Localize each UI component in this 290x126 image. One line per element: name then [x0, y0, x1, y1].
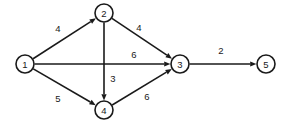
edge-weight-4-to-3: 6: [144, 91, 149, 102]
node-1[interactable]: 1: [16, 55, 34, 73]
edge-weight-2-to-4: 3: [110, 73, 115, 84]
edge-weight-1-to-3: 6: [131, 49, 136, 60]
edge-1-to-2: [33, 22, 91, 59]
arrowhead-icon-1-to-3: [164, 61, 170, 66]
node-label-2: 2: [101, 8, 106, 19]
edge-weight-1-to-2: 4: [55, 23, 60, 34]
edge-weight-2-to-3: 4: [136, 22, 141, 33]
edge-1-to-4: [33, 69, 90, 102]
node-2[interactable]: 2: [95, 4, 113, 22]
node-label-3: 3: [177, 59, 182, 70]
graph-canvas: 4463562 12345: [0, 0, 290, 126]
node-label-4: 4: [101, 105, 106, 116]
arrowhead-icon-3-to-5: [250, 61, 256, 66]
node-5[interactable]: 5: [257, 55, 275, 73]
edge-weight-1-to-4: 5: [55, 93, 60, 104]
node-label-5: 5: [263, 59, 268, 70]
node-label-1: 1: [22, 59, 27, 70]
edge-weight-3-to-5: 2: [218, 45, 223, 56]
arrowhead-icon-2-to-4: [101, 94, 106, 100]
node-3[interactable]: 3: [171, 55, 189, 73]
edge-4-to-3: [112, 72, 166, 105]
graph-diagram: 4463562 12345: [0, 0, 290, 126]
node-4[interactable]: 4: [95, 101, 113, 119]
edge-weights-layer: 4463562: [55, 22, 223, 104]
